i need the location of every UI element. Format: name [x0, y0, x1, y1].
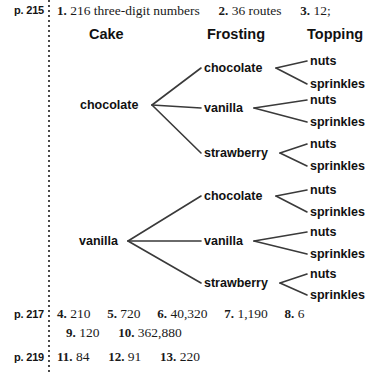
answer-item-3: 3. 12; — [300, 3, 330, 19]
answer-value-13: 220 — [180, 349, 200, 364]
tree2-topping-sprinkles-1: sprinkles — [310, 206, 365, 219]
column-header-cake: Cake — [89, 26, 124, 42]
answer-item-7: 7. 1,190 — [224, 306, 268, 322]
tree1-cake-chocolate: chocolate — [80, 99, 138, 112]
answer-number-4: 4. — [57, 306, 67, 321]
tree2-topping-nuts-2: nuts — [310, 226, 336, 239]
answer-item-12: 12. 91 — [108, 349, 141, 365]
tree1-frosting-strawberry: strawberry — [204, 147, 268, 160]
answer-value-11: 84 — [76, 349, 90, 364]
answer-number-12: 12. — [108, 349, 124, 364]
answer-row-p219: 11. 84 12. 91 13. 220 — [57, 349, 200, 365]
answer-number-8: 8. — [285, 306, 295, 321]
answer-item-6: 6. 40,320 — [157, 306, 207, 322]
answer-row-p217-line1: 4. 210 5. 720 6. 40,320 7. 1,190 8. 6 — [57, 306, 304, 322]
answer-number-1: 1. — [57, 3, 67, 18]
tree1-topping-sprinkles-2: sprinkles — [310, 116, 365, 129]
answer-number-11: 11. — [57, 349, 73, 364]
answer-value-5: 720 — [120, 306, 140, 321]
answer-value-12: 91 — [128, 349, 142, 364]
answer-number-10: 10. — [118, 325, 134, 340]
tree2-frosting-chocolate: chocolate — [204, 190, 262, 203]
answer-number-3: 3. — [300, 3, 310, 18]
answer-value-8: 6 — [298, 306, 305, 321]
tree2-topping-sprinkles-2: sprinkles — [310, 248, 365, 261]
answer-item-9: 9. 120 — [66, 325, 99, 341]
answer-item-1: 1. 216 three-digit numbers — [57, 3, 200, 19]
answer-item-5: 5. 720 — [107, 306, 140, 322]
tree1-frosting-vanilla: vanilla — [204, 102, 243, 115]
column-header-frosting: Frosting — [207, 26, 265, 42]
tree2-frosting-vanilla: vanilla — [204, 235, 243, 248]
vertical-dotted-divider — [48, 0, 50, 372]
answer-value-7: 1,190 — [237, 306, 267, 321]
answer-item-11: 11. 84 — [57, 349, 89, 365]
answer-item-2: 2. 36 routes — [219, 3, 282, 19]
column-header-topping: Topping — [307, 26, 363, 42]
answer-value-2: 36 routes — [232, 3, 282, 18]
answer-number-6: 6. — [157, 306, 167, 321]
page-label-219: p. 219 — [0, 351, 44, 363]
answer-number-2: 2. — [219, 3, 229, 18]
answer-key-page: p. 215 1. 216 three-digit numbers 2. 36 … — [0, 0, 385, 372]
tree2-topping-nuts-3: nuts — [310, 268, 336, 281]
tree2-frosting-strawberry: strawberry — [204, 277, 268, 290]
tree2-cake-vanilla: vanilla — [79, 235, 118, 248]
tree1-topping-sprinkles-3: sprinkles — [310, 160, 365, 173]
page-label-217: p. 217 — [0, 308, 44, 320]
tree1-topping-sprinkles-1: sprinkles — [310, 78, 365, 91]
tree1-topping-nuts-3: nuts — [310, 138, 336, 151]
answer-value-6: 40,320 — [170, 306, 207, 321]
tree1-topping-nuts-1: nuts — [310, 55, 336, 68]
answer-item-13: 13. 220 — [160, 349, 200, 365]
answer-number-13: 13. — [160, 349, 176, 364]
answer-item-8: 8. 6 — [285, 306, 305, 322]
answer-row-p215: 1. 216 three-digit numbers 2. 36 routes … — [57, 3, 331, 19]
tree1-topping-nuts-2: nuts — [310, 94, 336, 107]
answer-number-7: 7. — [224, 306, 234, 321]
answer-value-10: 362,880 — [138, 325, 182, 340]
answer-number-9: 9. — [66, 325, 76, 340]
tree1-frosting-chocolate: chocolate — [204, 62, 262, 75]
answer-value-9: 120 — [79, 325, 99, 340]
answer-item-4: 4. 210 — [57, 306, 90, 322]
answer-value-1: 216 three-digit numbers — [70, 3, 200, 18]
answer-row-p217-line2: 9. 120 10. 362,880 — [66, 325, 182, 341]
tree2-topping-sprinkles-3: sprinkles — [310, 289, 365, 302]
answer-item-10: 10. 362,880 — [118, 325, 182, 341]
tree2-topping-nuts-1: nuts — [310, 184, 336, 197]
answer-value-3: 12; — [313, 3, 330, 18]
answer-value-4: 210 — [70, 306, 90, 321]
answer-number-5: 5. — [107, 306, 117, 321]
page-label-215: p. 215 — [0, 4, 44, 16]
